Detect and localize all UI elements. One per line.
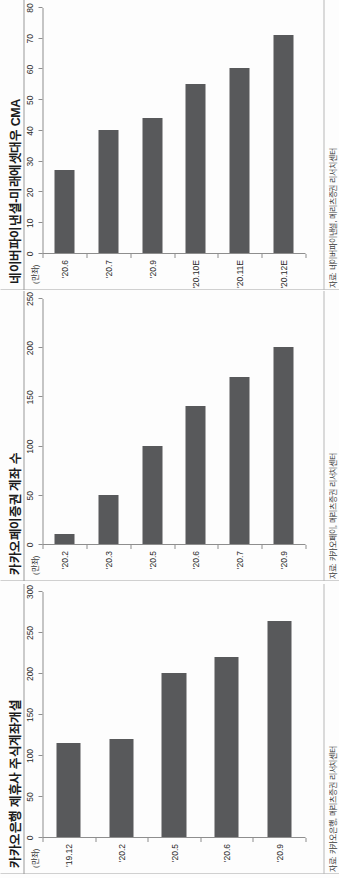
category-tick	[305, 838, 306, 842]
value-tick	[38, 69, 42, 70]
category-tick	[86, 545, 87, 549]
category-axis-line	[42, 837, 305, 838]
category-tick	[217, 545, 218, 549]
bar	[273, 35, 293, 253]
category-label: '20.2	[116, 844, 126, 862]
category-tick	[95, 838, 96, 842]
value-axis-line	[42, 299, 43, 545]
category-tick	[42, 545, 43, 549]
value-tick-label: 0	[24, 252, 34, 257]
value-tick	[38, 544, 42, 545]
bar	[54, 170, 74, 253]
value-tick	[38, 495, 42, 496]
plot-area: 01020304050607080'20.6'20.7'20.9'20.10E'…	[42, 8, 305, 254]
category-tick	[174, 545, 175, 549]
chart-title: 카카오은행 제휴사 주식계좌개설	[4, 699, 23, 868]
value-tick-label: 50	[24, 96, 34, 105]
bar	[185, 84, 205, 253]
title-divider	[23, 0, 24, 290]
value-tick-label: 20	[24, 188, 34, 197]
bar	[273, 347, 293, 544]
bar	[185, 406, 205, 544]
value-tick	[38, 130, 42, 131]
bar	[56, 743, 80, 837]
value-tick-label: 200	[24, 667, 34, 681]
value-tick-label: 100	[24, 749, 34, 763]
plot-area: 050100150200250300'19.12'20.2'20.5'20.6'…	[42, 592, 305, 838]
value-tick	[38, 837, 42, 838]
value-tick-label: 300	[24, 585, 34, 599]
value-tick-label: 250	[24, 292, 34, 306]
value-axis-line	[42, 8, 43, 254]
category-label: '20.6	[59, 260, 69, 278]
value-tick	[38, 755, 42, 756]
value-tick-label: 50	[24, 491, 34, 500]
value-tick-label: 30	[24, 157, 34, 166]
bar	[98, 495, 118, 544]
value-tick	[38, 347, 42, 348]
value-tick-label: 250	[24, 626, 34, 640]
panel-edge-rule	[0, 289, 339, 290]
title-divider	[23, 291, 24, 581]
value-tick	[38, 396, 42, 397]
axis-unit-label: (만좌)	[28, 265, 39, 284]
value-tick	[38, 673, 42, 674]
category-tick	[200, 838, 201, 842]
value-tick-label: 60	[24, 65, 34, 74]
category-tick	[261, 545, 262, 549]
value-tick	[38, 446, 42, 447]
category-tick	[147, 838, 148, 842]
axis-unit-label: (만좌)	[28, 849, 39, 868]
source-divider	[323, 584, 324, 874]
source-note: 자료: 카카오페이, 메리츠증권 리서치센터	[326, 453, 337, 579]
bar	[267, 621, 291, 837]
category-label: '19.12	[63, 844, 73, 867]
category-label: '20.10E	[190, 260, 200, 289]
category-label: '20.7	[234, 551, 244, 569]
category-label: '20.12E	[278, 260, 288, 289]
source-divider	[323, 291, 324, 581]
axis-unit-label: (만좌)	[28, 556, 39, 575]
value-tick-label: 0	[24, 836, 34, 841]
scanned-report-page: 네이버파이낸셜-미래에셋대우 CMA (만좌) 0102030405060708…	[0, 0, 339, 878]
category-tick	[252, 838, 253, 842]
value-tick	[38, 253, 42, 254]
chart-panel-kakaopay-securities-accounts: 카카오페이증권 계좌 수 (만좌) 050100150200250'20.2'2…	[0, 291, 339, 581]
chart-rotated-container: 카카오은행 제휴사 주식계좌개설 (만좌) 050100150200250300…	[0, 584, 339, 874]
value-tick	[38, 714, 42, 715]
value-tick-label: 40	[24, 126, 34, 135]
value-tick	[38, 99, 42, 100]
plot-area: 050100150200250'20.2'20.3'20.5'20.6'20.7…	[42, 299, 305, 545]
chart-rotated-container: 네이버파이낸셜-미래에셋대우 CMA (만좌) 0102030405060708…	[0, 0, 339, 290]
value-tick-label: 10	[24, 219, 34, 228]
panel-edge-rule	[0, 580, 339, 581]
source-note: 자료: 네이버파이낸셜, 메리츠증권 리서치센터	[326, 149, 337, 288]
bar	[109, 739, 133, 837]
chart-panel-naver-financial-cma: 네이버파이낸셜-미래에셋대우 CMA (만좌) 0102030405060708…	[0, 0, 339, 290]
source-divider	[323, 0, 324, 290]
category-label: '20.6	[221, 844, 231, 862]
category-label: '20.3	[103, 551, 113, 569]
value-tick	[38, 591, 42, 592]
value-tick	[38, 161, 42, 162]
category-tick	[86, 254, 87, 258]
category-tick	[261, 254, 262, 258]
chart-panel-kakaobank-partner-stock-accounts: 카카오은행 제휴사 주식계좌개설 (만좌) 050100150200250300…	[0, 584, 339, 874]
value-tick-label: 70	[24, 34, 34, 43]
value-tick-label: 0	[24, 543, 34, 548]
bar	[214, 657, 238, 837]
category-tick	[305, 254, 306, 258]
bar	[98, 130, 118, 253]
bar	[229, 69, 249, 254]
value-tick	[38, 7, 42, 8]
category-label: '20.5	[169, 844, 179, 862]
value-tick-label: 200	[24, 341, 34, 355]
value-tick-label: 150	[24, 390, 34, 404]
value-tick	[38, 222, 42, 223]
chart-rotated-container: 카카오페이증권 계좌 수 (만좌) 050100150200250'20.2'2…	[0, 291, 339, 581]
category-tick	[130, 545, 131, 549]
category-tick	[42, 838, 43, 842]
chart-title: 카카오페이증권 계좌 수	[4, 453, 23, 575]
chart-title: 네이버파이낸셜-미래에셋대우 CMA	[4, 99, 23, 284]
bar	[54, 534, 74, 544]
